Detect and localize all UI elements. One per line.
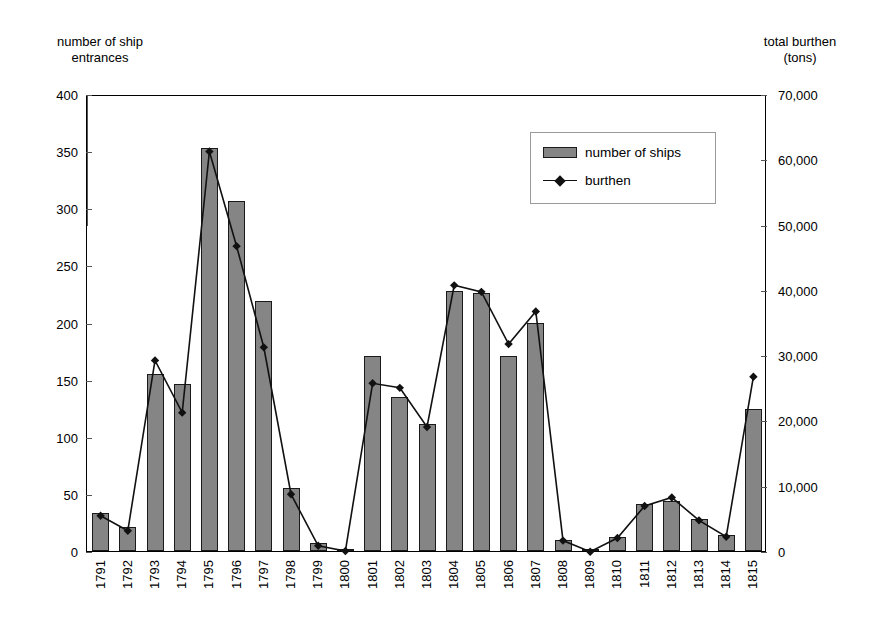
legend-item-number-of-ships: number of ships	[543, 141, 681, 163]
x-axis-tick-labels: 1791179217931794179517961797179817991800…	[86, 556, 766, 626]
bar-1810	[609, 537, 626, 551]
left-axis-title: number of ship entrances	[30, 34, 170, 66]
right-tickmark	[761, 421, 767, 422]
right-tickmark	[761, 291, 767, 292]
right-axis-tick-20000: 20,000	[778, 414, 818, 429]
burthen-marker-1802	[396, 384, 404, 392]
right-axis-tick-0: 0	[778, 545, 785, 560]
left-axis-tick-300: 300	[56, 202, 78, 217]
x-axis-label-1801: 1801	[365, 560, 380, 589]
left-tickmark	[86, 152, 92, 153]
left-axis-tick-200: 200	[56, 316, 78, 331]
bar-1808	[555, 540, 572, 551]
x-axis-label-1803: 1803	[419, 560, 434, 589]
x-axis-label-1813: 1813	[691, 560, 706, 589]
bar-1814	[718, 535, 735, 551]
bar-1799	[310, 543, 327, 551]
bar-1797	[255, 301, 272, 551]
left-axis-tick-150: 150	[56, 373, 78, 388]
chart-legend: number of ships burthen	[530, 132, 716, 204]
right-tickmark	[761, 356, 767, 357]
bar-1798	[283, 488, 300, 551]
burthen-marker-1793	[151, 356, 159, 364]
x-axis-label-1807: 1807	[528, 560, 543, 589]
x-axis-label-1815: 1815	[745, 560, 760, 589]
left-axis-tick-350: 350	[56, 145, 78, 160]
burthen-marker-1807	[532, 307, 540, 315]
bar-1793	[147, 374, 164, 551]
x-axis-label-1810: 1810	[609, 560, 624, 589]
left-tickmark	[86, 381, 92, 382]
left-axis-tick-100: 100	[56, 430, 78, 445]
bar-swatch-icon	[543, 147, 577, 158]
bar-1800	[337, 549, 354, 551]
left-tickmark	[86, 495, 92, 496]
bar-1813	[691, 519, 708, 551]
x-axis-label-1811: 1811	[637, 560, 652, 588]
bar-1791	[92, 513, 109, 551]
right-axis-tick-50000: 50,000	[778, 218, 818, 233]
right-tickmark	[761, 160, 767, 161]
x-axis-label-1812: 1812	[664, 560, 679, 589]
bar-1811	[636, 504, 653, 551]
bar-1805	[473, 293, 490, 551]
right-tickmark	[761, 552, 767, 553]
right-axis-title: total burthen (tons)	[730, 34, 870, 66]
bar-1809	[582, 549, 599, 551]
right-tickmark	[761, 487, 767, 488]
x-axis-label-1798: 1798	[283, 560, 298, 589]
left-tickmark	[86, 95, 92, 96]
left-axis-tick-0: 0	[71, 545, 78, 560]
right-axis-tick-40000: 40,000	[778, 283, 818, 298]
x-axis-label-1802: 1802	[392, 560, 407, 589]
right-tickmark	[761, 226, 767, 227]
legend-label-burthen: burthen	[585, 173, 631, 188]
chart-figure: number of ship entrances total burthen (…	[0, 0, 893, 627]
x-axis-label-1800: 1800	[337, 560, 352, 589]
x-tickmark	[87, 221, 88, 226]
x-axis-label-1794: 1794	[174, 560, 189, 589]
bar-1806	[500, 356, 517, 551]
x-axis-label-1805: 1805	[473, 560, 488, 589]
burthen-marker-1804	[450, 281, 458, 289]
x-axis-label-1804: 1804	[446, 560, 461, 589]
x-axis-label-1791: 1791	[93, 560, 108, 589]
x-axis-label-1806: 1806	[501, 560, 516, 589]
bar-1794	[174, 384, 191, 551]
bar-1803	[419, 424, 436, 551]
legend-label-number-of-ships: number of ships	[585, 145, 681, 160]
left-axis-tick-50: 50	[64, 487, 78, 502]
right-axis-tick-labels: 010,00020,00030,00040,00050,00060,00070,…	[778, 95, 868, 552]
right-axis-tick-10000: 10,000	[778, 479, 818, 494]
x-axis-label-1793: 1793	[147, 560, 162, 589]
x-axis-label-1796: 1796	[229, 560, 244, 589]
legend-item-burthen: burthen	[543, 169, 631, 191]
x-axis-label-1795: 1795	[201, 560, 216, 589]
x-axis-label-1809: 1809	[582, 560, 597, 589]
left-tickmark	[86, 438, 92, 439]
bar-1812	[663, 501, 680, 551]
x-axis-label-1797: 1797	[256, 560, 271, 589]
left-tickmark	[86, 266, 92, 267]
x-axis-label-1799: 1799	[310, 560, 325, 589]
right-axis-tick-70000: 70,000	[778, 88, 818, 103]
bar-1796	[228, 201, 245, 551]
burthen-marker-1815	[749, 373, 757, 381]
x-axis-label-1814: 1814	[718, 560, 733, 589]
bar-1795	[201, 148, 218, 551]
right-tickmark	[761, 95, 767, 96]
right-axis-tick-60000: 60,000	[778, 153, 818, 168]
left-axis-tick-400: 400	[56, 88, 78, 103]
left-tickmark	[86, 324, 92, 325]
bar-1802	[391, 397, 408, 551]
bar-1815	[745, 409, 762, 551]
bar-1792	[119, 527, 136, 551]
left-tickmark	[86, 552, 92, 553]
x-axis-label-1808: 1808	[555, 560, 570, 589]
left-axis-tick-250: 250	[56, 259, 78, 274]
left-tickmark	[86, 209, 92, 210]
bar-1807	[527, 323, 544, 552]
line-diamond-swatch-icon	[543, 175, 577, 186]
right-axis-tick-30000: 30,000	[778, 349, 818, 364]
x-axis-label-1792: 1792	[120, 560, 135, 589]
